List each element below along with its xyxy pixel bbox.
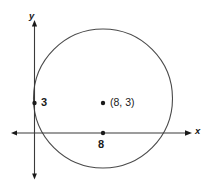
geometry-figure: y x 3 8 (8, 3): [0, 0, 210, 191]
center-coordinate-label: (8, 3): [110, 97, 135, 108]
coordinate-plane-svg: [0, 0, 210, 191]
y-intercept-label: 3: [41, 97, 47, 108]
point-center: [101, 101, 105, 105]
y-axis-label: y: [29, 11, 34, 21]
point-x-intercept: [101, 131, 105, 135]
y-axis: [32, 20, 37, 180]
y-axis-bottom-tick: [32, 174, 37, 180]
x-axis-arrowhead: [185, 130, 192, 135]
x-axis-label: x: [195, 126, 200, 136]
point-y-intercept: [32, 101, 36, 105]
x-axis-left-tick: [11, 131, 17, 136]
x-intercept-label: 8: [98, 139, 104, 150]
